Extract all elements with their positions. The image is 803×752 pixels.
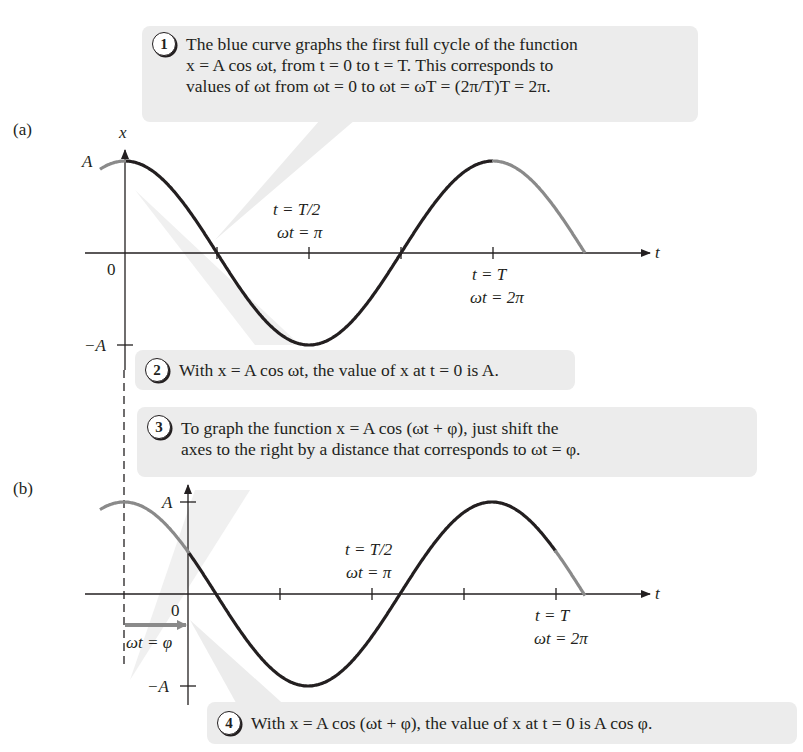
- panel-a-label: (a): [13, 120, 32, 139]
- cosine-extension-left: [100, 502, 189, 553]
- period-phase-label: ωt = 2π: [470, 288, 524, 307]
- half-period-label: t = T/2: [345, 540, 393, 559]
- cosine-extension-right: [555, 550, 585, 595]
- period-label: t = T: [472, 265, 508, 284]
- half-period-label: t = T/2: [273, 200, 321, 219]
- half-period-phase-label: ωt = π: [277, 223, 323, 242]
- origin-label: 0: [171, 601, 180, 620]
- amplitude-label: A: [81, 152, 93, 171]
- period-phase-label: ωt = 2π: [534, 629, 588, 648]
- half-period-phase-label: ωt = π: [346, 563, 392, 582]
- phase-label: ωt = φ: [126, 633, 172, 652]
- t-axis-label: t: [655, 243, 661, 262]
- neg-amplitude-label: −A: [84, 336, 106, 355]
- graph-a: (a) x t A 0 −A t = T/2 ωt = π t = T ωt =…: [13, 120, 661, 370]
- graph-b: (b) t A 0 −A t = T/2 ωt = π t = T ωt = 2…: [13, 479, 661, 705]
- graphs: (a) x t A 0 −A t = T/2 ωt = π t = T ωt =…: [0, 0, 803, 752]
- cosine-extension-left: [100, 161, 126, 169]
- amplitude-label: A: [161, 493, 173, 512]
- cosine-extension-right: [492, 161, 585, 253]
- neg-amplitude-label: −A: [147, 677, 169, 696]
- period-label: t = T: [535, 606, 571, 625]
- origin-label: 0: [107, 260, 116, 279]
- x-axis-label: x: [118, 123, 127, 142]
- panel-b-label: (b): [13, 479, 33, 498]
- t-axis-label: t: [655, 584, 661, 603]
